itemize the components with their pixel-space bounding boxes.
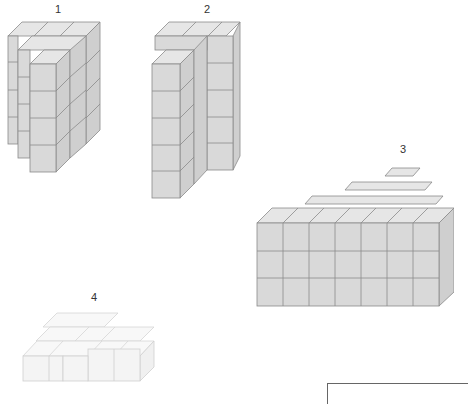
figure-4-cubes [23, 313, 154, 381]
answer-box-frame [327, 383, 468, 404]
figure-3-cubes [257, 168, 454, 306]
figure-1-cubes [8, 22, 100, 172]
figure-2-cubes [152, 22, 240, 198]
